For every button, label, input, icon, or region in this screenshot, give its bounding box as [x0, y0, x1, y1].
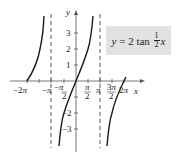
legend-x: x — [161, 35, 166, 47]
x-tick-3pi2-den: 2 — [109, 91, 114, 101]
x-tick-negpi2-den: 2 — [62, 91, 67, 101]
legend-fraction: 1 2 — [154, 32, 160, 49]
x-tick-pi2-den: 2 — [85, 91, 90, 101]
x-tick-negpi: −π — [42, 85, 52, 95]
x-axis-label: x — [133, 86, 138, 96]
y-tick-neg2: −2 — [62, 108, 72, 118]
y-tick-3: 3 — [66, 28, 71, 38]
legend-equals: = 2 tan — [116, 35, 152, 47]
y-tick-1: 1 — [66, 60, 71, 70]
x-tick-2pi: 2π — [119, 85, 129, 95]
y-axis-label: y — [65, 7, 70, 17]
frac-num: 1 — [155, 32, 159, 40]
frac-den: 2 — [155, 41, 159, 49]
tangent-graph: y x 3 2 1 −2 −3 −2π −π −π 2 π 2 π 3π 2 2… — [0, 0, 178, 154]
equation-legend: y = 2 tan 1 2 x — [106, 26, 171, 55]
x-axis-arrow-icon — [140, 79, 145, 83]
x-tick-neg2pi: −2π — [13, 85, 28, 95]
y-tick-neg3: −3 — [62, 124, 72, 134]
y-axis-arrow-icon — [74, 10, 78, 15]
x-tick-pi: π — [96, 85, 101, 95]
curve-branch-left — [27, 16, 44, 81]
y-tick-2: 2 — [66, 44, 71, 54]
